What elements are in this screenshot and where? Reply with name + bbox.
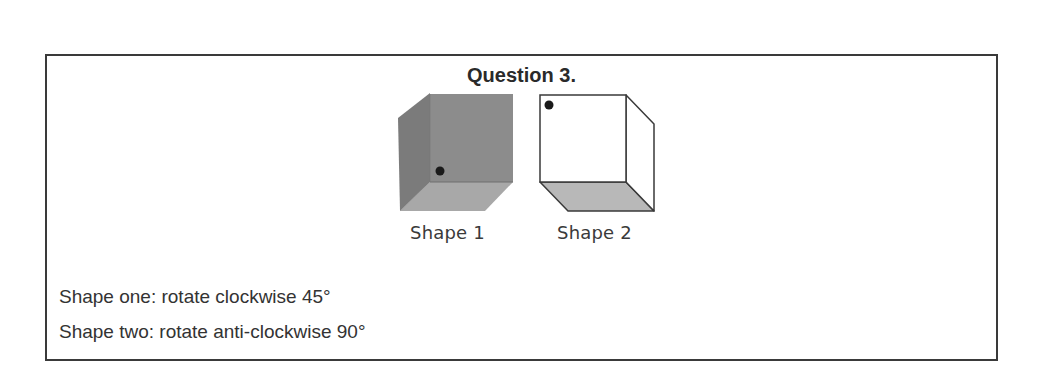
cube-figures — [47, 56, 996, 359]
question-card: Question 3. Shap — [45, 54, 998, 361]
shape-2-front-face — [540, 95, 626, 182]
shape-1-label: Shape 1 — [410, 221, 485, 245]
shape-2-cube-icon — [540, 95, 654, 211]
instruction-shape-two: Shape two: rotate anti-clockwise 90° — [59, 320, 365, 344]
instruction-shape-one: Shape one: rotate clockwise 45° — [59, 285, 331, 309]
shape-2-label: Shape 2 — [557, 221, 632, 245]
shape-1-cube-icon — [398, 93, 513, 211]
shape-2-dot-icon — [545, 101, 554, 110]
shape-1-dot-icon — [436, 167, 445, 176]
